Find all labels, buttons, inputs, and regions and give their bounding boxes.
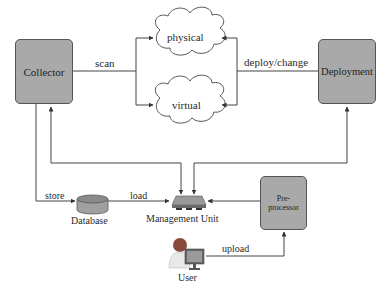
load-label: load [130,191,147,201]
management-unit-icon [172,196,206,210]
physical-label: physical [167,32,204,43]
deployment-node[interactable]: Deployment [318,39,376,104]
edge-collector-management [51,107,181,194]
preprocessor-node[interactable]: Pre- processor [260,176,307,230]
deployment-label: Deployment [321,66,373,77]
store-label: store [45,191,64,201]
deploy-change-label: deploy/change [244,57,308,68]
scan-label: scan [95,58,115,69]
preprocessor-label-line1: Pre- [277,194,290,203]
collector-label: Collector [24,66,65,78]
management-unit-label: Management Unit [146,214,218,224]
user-label: User [178,273,197,283]
edge-deploy-change [222,38,318,105]
collector-node[interactable]: Collector [15,39,73,104]
database-icon [77,195,108,214]
user-icon [169,238,204,270]
preprocessor-label-line2: processor [268,203,299,212]
edge-scan [73,38,153,105]
upload-label: upload [222,244,249,254]
edge-store [36,104,75,201]
database-label: Database [71,216,108,226]
virtual-label: virtual [172,100,201,111]
